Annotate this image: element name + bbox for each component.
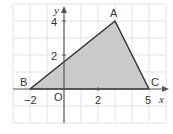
point-label-c: C	[151, 76, 159, 88]
y-axis-arrow-icon	[61, 6, 67, 13]
point-label-a: A	[110, 7, 118, 19]
coordinate-plane: y x O −2 2 5 2 4 A B C	[0, 0, 173, 134]
x-tick-label-neg2: −2	[24, 94, 37, 106]
x-tick-label-2: 2	[95, 94, 101, 106]
y-tick-label-4: 4	[51, 16, 57, 28]
x-axis-label: x	[158, 93, 164, 105]
y-tick-label-2: 2	[51, 50, 57, 62]
x-tick-label-5: 5	[145, 94, 151, 106]
y-axis-label: y	[53, 4, 59, 16]
origin-label: O	[54, 91, 63, 103]
point-label-b: B	[20, 76, 27, 88]
